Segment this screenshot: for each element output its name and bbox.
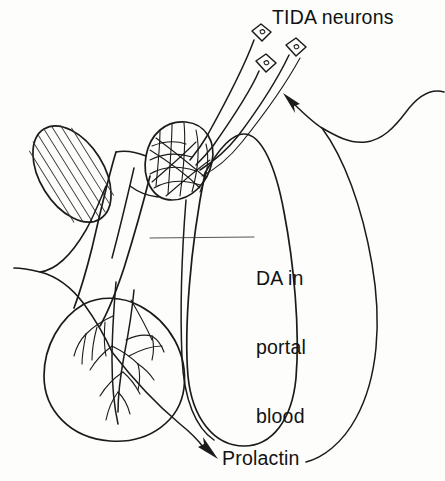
prolactin-arrow-head [198, 437, 218, 459]
axon-1 [190, 40, 254, 160]
prolactin-arrow-shaft [112, 352, 204, 448]
da-label-leader [150, 237, 254, 238]
neuron-cell-body-2 [256, 54, 276, 72]
label-da-line-1: DA in [256, 267, 306, 290]
feedback-arrow-head [283, 93, 300, 113]
prolactin-arrow [112, 352, 218, 459]
systemic-circulation-loop [306, 128, 377, 462]
da-leader-line [150, 237, 254, 238]
axon-2 [196, 71, 259, 165]
label-tida-neurons: TIDA neurons [272, 6, 394, 29]
feedback-arrow-shaft [289, 91, 444, 142]
stalk-right-wall [100, 176, 150, 326]
label-da-portal-blood: DA in portal blood [256, 221, 306, 474]
label-da-line-3: blood [256, 405, 306, 428]
median-eminence [116, 122, 213, 200]
loop-right-descending [306, 128, 377, 462]
anterior-pituitary-lobe [44, 282, 185, 441]
neuron-cell-body-1 [252, 24, 271, 41]
neuron-cell-body-3 [286, 38, 306, 56]
label-da-line-2: portal [256, 336, 306, 359]
feedback-arrow [283, 91, 444, 142]
diagram-canvas: TIDA neurons DA in portal blood Prolacti… [0, 0, 445, 481]
anterior-lobe-outline [44, 298, 185, 441]
stalk-left-wall [74, 152, 116, 308]
diagram-drawing [0, 0, 445, 481]
teardrop-inner-contour [181, 200, 214, 440]
hypothalamus-base [14, 268, 84, 304]
label-prolactin: Prolactin [222, 447, 300, 470]
